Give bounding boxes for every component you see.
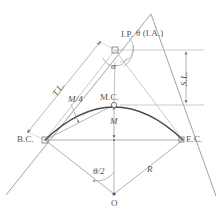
label-o: O	[111, 199, 118, 208]
label-m-over-4: M/4	[68, 95, 83, 104]
ip-to-ec-aux-line	[115, 50, 183, 140]
label-intersection-angle: θ (I.A.)	[136, 29, 163, 38]
label-ec: E.C.	[186, 135, 202, 144]
label-bc: B.C.	[17, 135, 34, 144]
label-r: R	[147, 165, 153, 174]
tl-endpoint-lower	[27, 131, 29, 133]
tl-endpoint-upper	[99, 41, 101, 43]
tl-extension-ip	[100, 42, 115, 50]
label-mc: M.C.	[100, 93, 119, 102]
label-m: M	[110, 117, 118, 126]
o-point-marker	[112, 192, 115, 195]
point-markers	[27, 41, 184, 196]
ia-angle-arc	[124, 45, 133, 66]
m-over-4-dimension	[71, 104, 79, 123]
diagram-canvas	[0, 0, 222, 213]
mc-point-marker	[111, 102, 116, 107]
curve-diagram: I.P. θ (I.A.) α S.L. T.L. M/4 M.C. M B.C…	[0, 0, 222, 213]
m-chord-tick	[113, 139, 115, 141]
sl-dimension	[120, 50, 204, 105]
back-tangent-line	[6, 14, 151, 195]
label-alpha: α	[111, 62, 116, 71]
chord-bc-mc-line	[45, 105, 114, 140]
tangent-length-dimension	[28, 42, 115, 140]
label-sl: S.L.	[180, 72, 189, 86]
label-theta-half: θ/2	[93, 167, 105, 176]
m4-leader-line	[71, 104, 74, 112]
label-ip: I.P.	[121, 30, 133, 39]
